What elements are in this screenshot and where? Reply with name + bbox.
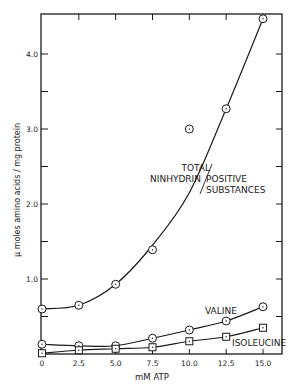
label-valine: VALINE (205, 306, 237, 316)
marker-dot (225, 320, 226, 321)
x-tick-label: 0 (40, 359, 45, 368)
x-tick-label: 2.5 (73, 359, 85, 368)
marker-dot (41, 344, 42, 345)
marker-dot (189, 329, 190, 330)
chart: 02.55.07.510.012.515.01.02.03.04.0 TOTAL… (0, 0, 297, 386)
y-tick-label: 1.0 (26, 275, 38, 284)
y-tick-label: 3.0 (26, 125, 38, 134)
label-substances: SUBSTANCES (206, 185, 266, 195)
label-isoleucine: ISOLEUCINE (232, 338, 286, 348)
x-tick-label: 10.0 (181, 359, 198, 368)
x-tick-label: 5.0 (110, 359, 122, 368)
marker-dot (78, 305, 79, 306)
series-total (38, 15, 267, 313)
marker-dot (152, 338, 153, 339)
marker-dot (225, 336, 226, 337)
x-tick-label: 12.5 (218, 359, 235, 368)
marker-dot (262, 18, 263, 19)
marker-dot (78, 350, 79, 351)
marker-dot (189, 341, 190, 342)
marker-dot (189, 128, 190, 129)
marker-dot (41, 353, 42, 354)
label-positive: POSITIVE (206, 174, 247, 184)
y-tick-label: 4.0 (26, 50, 38, 59)
marker-dot (152, 347, 153, 348)
y-axis-label: μ moles amino acids / mg protein (13, 123, 22, 257)
marker-dot (41, 308, 42, 309)
label-ninhydrin: NINHYDRIN (150, 174, 201, 184)
x-axis-label: mM ATP (135, 372, 169, 382)
x-tick-label: 15.0 (255, 359, 272, 368)
marker-dot (152, 249, 153, 250)
marker-dot (225, 108, 226, 109)
x-tick-label: 7.5 (147, 359, 159, 368)
label-total: TOTAL (180, 163, 210, 173)
marker-dot (115, 348, 116, 349)
series-line (42, 19, 263, 309)
marker-dot (262, 306, 263, 307)
marker-dot (78, 345, 79, 346)
y-tick-label: 2.0 (26, 200, 38, 209)
marker-dot (115, 284, 116, 285)
marker-dot (262, 327, 263, 328)
tick-labels: 02.55.07.510.012.515.01.02.03.04.0 (26, 50, 272, 368)
